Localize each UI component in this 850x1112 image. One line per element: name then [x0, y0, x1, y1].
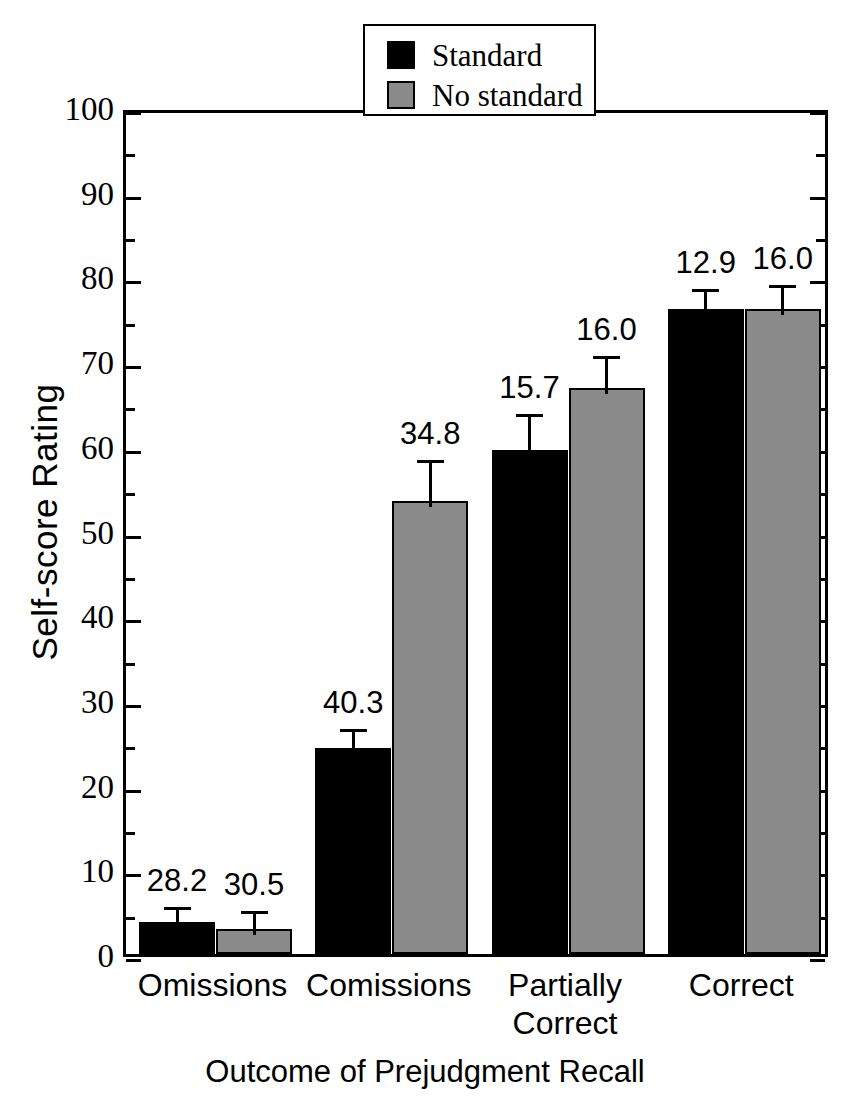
plot-area: 28.230.540.334.815.716.012.916.0: [123, 110, 828, 957]
bar-value-label-no-standard-2: 16.0: [576, 314, 636, 345]
legend: StandardNo standard: [363, 24, 596, 116]
y-tick-minor-left-5: [126, 917, 135, 920]
bar-no-standard-1: [392, 501, 468, 954]
bar-value-label-no-standard-1: 34.8: [400, 418, 460, 449]
y-tick-minor-right-85: [816, 239, 825, 242]
y-tick-major-left-30: [126, 705, 141, 708]
bar-value-label-standard-0: 28.2: [147, 865, 207, 896]
y-tick-label-10: 10: [36, 855, 114, 888]
error-bar-cap-standard-2: [516, 414, 543, 417]
y-tick-major-left-10: [126, 874, 141, 877]
y-tick-minor-left-25: [126, 747, 135, 750]
y-tick-label-20: 20: [36, 771, 114, 804]
plot-inner: 28.230.540.334.815.716.012.916.0: [126, 113, 825, 954]
bar-value-label-no-standard-0: 30.5: [224, 869, 284, 900]
legend-label-0: Standard: [432, 40, 542, 71]
bar-value-label-standard-1: 40.3: [323, 687, 383, 718]
error-bar-cap-standard-3: [692, 289, 719, 292]
legend-item-standard: Standard: [387, 36, 542, 74]
error-bar-stem-standard-2: [528, 414, 531, 456]
y-tick-minor-left-95: [126, 154, 135, 157]
y-tick-major-right-80: [810, 281, 825, 284]
x-axis-title: Outcome of Prejudgment Recall: [0, 1054, 850, 1090]
bar-value-label-no-standard-3: 16.0: [753, 243, 813, 274]
y-tick-major-left-40: [126, 620, 141, 623]
bar-no-standard-3: [745, 309, 821, 954]
legend-label-1: No standard: [432, 80, 583, 111]
error-bar-cap-no-standard-1: [417, 460, 444, 463]
y-tick-minor-left-45: [126, 578, 135, 581]
error-bar-cap-no-standard-3: [769, 285, 796, 288]
y-tick-minor-right-95: [816, 154, 825, 157]
error-bar-cap-standard-0: [164, 907, 191, 910]
legend-swatch-icon-1: [387, 81, 415, 109]
error-bar-cap-no-standard-2: [593, 356, 620, 359]
y-tick-minor-left-35: [126, 663, 135, 666]
error-bar-stem-no-standard-1: [429, 460, 432, 507]
bar-standard-3: [668, 309, 744, 954]
x-tick-label-0: Omissions: [138, 966, 287, 1004]
error-bar-stem-standard-3: [704, 289, 707, 314]
y-tick-major-left-80: [126, 281, 141, 284]
y-tick-minor-left-65: [126, 408, 135, 411]
y-tick-minor-left-85: [126, 239, 135, 242]
bar-no-standard-2: [569, 388, 645, 954]
bar-value-label-standard-3: 12.9: [676, 247, 736, 278]
y-tick-label-0: 0: [36, 940, 114, 973]
y-tick-major-right-100: [810, 112, 825, 115]
y-tick-major-left-0: [126, 959, 141, 962]
y-tick-label-80: 80: [36, 262, 114, 295]
y-tick-major-left-50: [126, 536, 141, 539]
y-tick-label-40: 40: [36, 601, 114, 634]
y-tick-major-right-90: [810, 197, 825, 200]
x-tick-label-2: Partially Correct: [508, 966, 622, 1042]
y-tick-label-50: 50: [36, 517, 114, 550]
error-bar-stem-no-standard-0: [253, 911, 256, 935]
error-bar-stem-standard-1: [352, 729, 355, 754]
error-bar-cap-no-standard-0: [241, 911, 268, 914]
y-tick-major-left-20: [126, 790, 141, 793]
bar-standard-2: [492, 450, 568, 954]
y-tick-label-30: 30: [36, 686, 114, 719]
y-tick-major-left-90: [126, 197, 141, 200]
y-tick-minor-left-15: [126, 832, 135, 835]
y-axis-tick-labels: 1009080706050403020100: [22, 0, 114, 1112]
x-tick-label-1: Comissions: [306, 966, 471, 1004]
bar-value-label-standard-2: 15.7: [499, 372, 559, 403]
y-tick-label-70: 70: [36, 347, 114, 380]
x-tick-label-3: Correct: [689, 966, 794, 1004]
y-tick-major-left-70: [126, 366, 141, 369]
legend-item-no-standard: No standard: [387, 76, 583, 114]
error-bar-stem-no-standard-3: [781, 285, 784, 315]
bar-chart-figure: Self-score Rating 1009080706050403020100…: [0, 0, 850, 1112]
error-bar-cap-standard-1: [340, 729, 367, 732]
y-tick-major-left-100: [126, 112, 141, 115]
error-bar-stem-no-standard-2: [605, 356, 608, 394]
y-tick-major-left-60: [126, 451, 141, 454]
y-tick-minor-left-75: [126, 324, 135, 327]
y-tick-major-right-0: [810, 959, 825, 962]
y-tick-minor-left-55: [126, 493, 135, 496]
y-tick-label-90: 90: [36, 178, 114, 211]
y-tick-label-100: 100: [36, 93, 114, 126]
y-tick-label-60: 60: [36, 432, 114, 465]
bar-standard-1: [315, 748, 391, 954]
legend-swatch-icon-0: [387, 41, 415, 69]
error-bar-stem-standard-0: [176, 907, 179, 927]
